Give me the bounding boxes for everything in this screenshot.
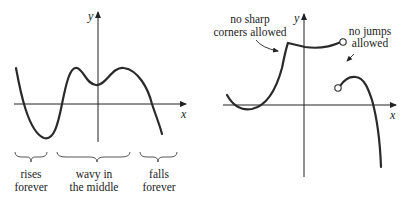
annotation-rises-line2: forever — [14, 181, 47, 193]
left-x-axis-label: x — [180, 107, 187, 121]
left-y-axis-label: y — [87, 9, 94, 23]
annotation-no-corners-line2: corners allowed — [213, 26, 286, 38]
annotation-no-jumps-line2: allowed — [352, 37, 389, 49]
brace-wavy — [57, 152, 130, 162]
open-endpoint-upper — [340, 39, 346, 45]
open-endpoint-lower — [335, 85, 341, 91]
brace-falls — [140, 152, 177, 162]
right-y-axis-label: y — [293, 11, 300, 25]
annotation-falls-line1: falls — [149, 168, 169, 180]
annotation-falls-line2: forever — [142, 181, 175, 193]
annotation-wavy-line2: the middle — [70, 181, 119, 193]
right-graph: x y no sharp corners allowed no jumps al… — [213, 11, 396, 177]
figure-canvas: x y rises forever wavy in the middle fal… — [0, 0, 405, 199]
right-curve-continuous-piece — [227, 42, 341, 109]
right-curve-jump-piece — [340, 77, 381, 167]
annotation-no-corners-line1: no sharp — [230, 13, 270, 26]
right-x-axis-label: x — [389, 108, 396, 122]
annotation-rises-line1: rises — [20, 168, 42, 180]
left-graph: x y rises forever wavy in the middle fal… — [14, 9, 187, 193]
arrow-to-corner — [256, 40, 278, 51]
annotation-wavy-line1: wavy in — [76, 168, 113, 181]
arrow-to-jump — [347, 54, 354, 61]
brace-rises — [15, 152, 47, 162]
left-curve — [16, 68, 162, 138]
